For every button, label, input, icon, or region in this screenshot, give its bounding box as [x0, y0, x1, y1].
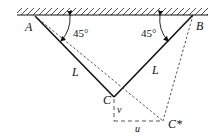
truss-diagram: A B 45° 45° L L C v u C* [0, 0, 216, 139]
angle-arc-a [61, 15, 70, 41]
bar-label-ac: L [71, 65, 79, 79]
label-u: u [135, 123, 140, 134]
label-v: v [117, 104, 122, 115]
bar-label-bc: L [151, 63, 159, 77]
angle-arc-b [160, 15, 168, 41]
fixed-support-ground [17, 8, 208, 15]
label-c: C [103, 93, 112, 107]
label-c-star: C* [168, 117, 182, 131]
angle-label-b: 45° [141, 27, 156, 39]
angle-label-a: 45° [73, 27, 88, 39]
label-a: A [24, 20, 33, 34]
label-b: B [196, 19, 204, 33]
